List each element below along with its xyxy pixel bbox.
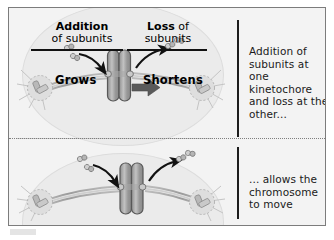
curved-arrow-loss-icon-top — [136, 49, 165, 68]
header-addition-underline — [31, 49, 123, 51]
curved-arrow-loss-icon-bottom — [149, 161, 177, 181]
caption-rule-bottom — [237, 147, 239, 219]
header-loss-underline — [127, 49, 207, 51]
figure-root: Addition of subunits Loss of subunits Gr… — [0, 0, 334, 240]
spindle-pole-left — [28, 76, 53, 101]
edge-artifact — [10, 229, 36, 235]
curved-arrow-add-icon-top — [79, 54, 103, 70]
header-addition: Addition of subunits — [39, 21, 125, 45]
kinetochore-microtubules-left-b — [43, 186, 122, 206]
header-addition-rest: of subunits — [52, 32, 113, 45]
header-loss: Loss of subunits — [129, 21, 207, 45]
label-grows: Grows — [55, 73, 96, 87]
figure-frame: Addition of subunits Loss of subunits Gr… — [8, 7, 326, 226]
tubulin-subunits-right-bottom — [176, 150, 196, 162]
tubulin-subunits-left-top — [64, 43, 81, 61]
spindle-pole-left-b — [28, 190, 53, 215]
caption-bottom: ... allows the chromosome to move — [249, 173, 326, 211]
label-shortens: Shortens — [143, 73, 203, 87]
panel-divider — [9, 138, 326, 140]
tubulin-subunits-left-bottom — [77, 154, 95, 172]
caption-top: Addition of subunits at one kinetochore … — [249, 45, 326, 121]
caption-rule-top — [237, 20, 239, 137]
header-loss-second-line: subunits — [145, 32, 192, 45]
curved-arrow-add-icon-bottom — [93, 165, 116, 183]
spindle-pole-right-b — [190, 190, 215, 215]
